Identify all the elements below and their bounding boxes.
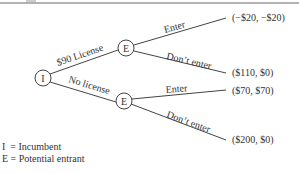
node-entrant-upper: E	[118, 40, 134, 56]
node-entrant-upper-label: E	[123, 43, 129, 54]
node-incumbent-label: I	[41, 73, 44, 84]
payoff-upper-dont-enter: ($110, $0)	[232, 67, 273, 79]
label-license: $90 License	[55, 41, 105, 67]
label-no-license: No license	[67, 73, 111, 96]
label-upper-enter: Enter	[163, 18, 187, 35]
payoff-upper-enter: (−$20, −$20)	[232, 12, 285, 24]
payoff-lower-dont-enter: ($200, $0)	[232, 134, 274, 146]
legend-incumbent: I = Incumbent	[2, 141, 61, 153]
node-entrant-lower-label: E	[121, 96, 127, 107]
label-lower-dont-enter: Don’t enter	[165, 109, 212, 135]
legend-entrant: E = Potential entrant	[2, 153, 85, 165]
label-lower-enter: Enter	[165, 82, 188, 95]
payoff-lower-enter: ($70, $70)	[232, 85, 274, 97]
node-incumbent: I	[35, 70, 51, 86]
node-entrant-lower: E	[116, 93, 132, 109]
label-upper-dont-enter: Don’t enter	[166, 50, 214, 71]
